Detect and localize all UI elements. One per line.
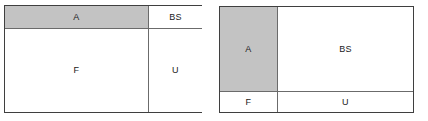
diagram-right-cell-bs-label: BS	[339, 45, 352, 54]
diagram-left-cell-a: A	[5, 6, 149, 29]
diagram-right-cell-f-label: F	[246, 98, 252, 107]
diagram-right-cell-bs: BS	[278, 7, 413, 92]
diagram-right: A BS F U	[219, 6, 414, 113]
diagram-right-cell-f: F	[220, 92, 278, 112]
diagram-left-cell-u-label: U	[172, 66, 179, 75]
diagram-left-cell-a-label: A	[73, 13, 79, 22]
diagram-right-cell-u-label: U	[342, 98, 349, 107]
figure-canvas: A BS F U A BS F U	[0, 0, 428, 121]
diagram-right-cell-a-label: A	[245, 45, 251, 54]
diagram-right-cell-a: A	[220, 7, 278, 92]
diagram-left-cell-f: F	[5, 29, 149, 112]
diagram-left-cell-f-label: F	[74, 66, 80, 75]
diagram-left: A BS F U	[4, 5, 202, 113]
diagram-left-cell-bs-label: BS	[169, 13, 182, 22]
diagram-right-cell-u: U	[278, 92, 413, 112]
diagram-left-cell-u: U	[149, 29, 202, 112]
diagram-left-cell-bs: BS	[149, 6, 202, 29]
